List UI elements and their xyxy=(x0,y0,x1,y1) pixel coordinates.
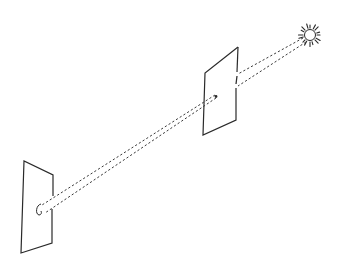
light-beam-projected xyxy=(42,95,216,213)
light-beam-incoming xyxy=(238,38,306,86)
projected-image-spot xyxy=(37,204,42,215)
pinhole-screen xyxy=(203,47,238,135)
pinhole-diagram xyxy=(0,0,343,273)
projection-screen xyxy=(21,161,53,253)
sun-icon xyxy=(299,24,321,47)
